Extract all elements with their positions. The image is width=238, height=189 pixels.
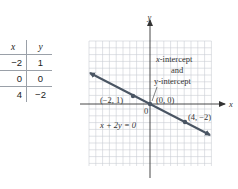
point-origin xyxy=(148,102,152,106)
annotation-line3: y-intercept xyxy=(154,76,191,86)
x-axis-label: x xyxy=(228,99,233,109)
y-axis-label: y xyxy=(147,12,152,22)
coordinate-graph: x y 0 (−2, 1) (0, 0) (4, −2) x-intercept… xyxy=(0,0,238,189)
point-label-4-neg2: (4, −2) xyxy=(188,112,211,122)
point-4-neg2 xyxy=(183,120,187,124)
point-neg2-1 xyxy=(131,94,135,98)
point-label-neg2-1: (−2, 1) xyxy=(100,95,123,105)
point-label-origin: (0, 0) xyxy=(156,95,175,105)
annotation-line1: x-intercept xyxy=(155,54,193,64)
origin-label: 0 xyxy=(144,106,148,116)
annotation-line2: and xyxy=(171,65,184,75)
equation-label: x + 2y = 0 xyxy=(99,120,137,130)
